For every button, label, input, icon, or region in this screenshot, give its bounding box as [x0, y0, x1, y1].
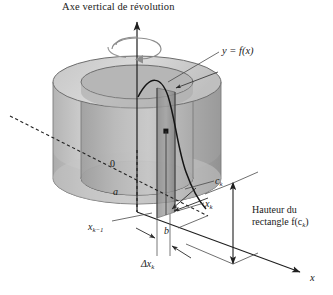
height-caption: Hauteur du rectangle f(ck)	[252, 204, 309, 228]
upper-bound-label: b	[164, 225, 169, 237]
delta-x-subscript: k	[151, 263, 154, 270]
x-left-subscript: k−1	[92, 226, 103, 233]
figure-graphics	[0, 0, 333, 295]
height-caption-line2: rectangle	[252, 216, 289, 227]
delta-x-letter: Δx	[141, 258, 151, 269]
figure-title: Axe vertical de révolution	[62, 1, 175, 13]
x-right-label: xk	[205, 198, 212, 211]
midpoint-label: ck	[215, 175, 222, 188]
x-axis-label: x	[310, 272, 315, 284]
height-caption-line1: Hauteur du	[252, 204, 297, 215]
curve-label: y = f(x)	[222, 45, 254, 57]
origin-label: 0	[110, 158, 115, 170]
height-caption-fn-end: )	[305, 216, 308, 227]
delta-x-label: Δxk	[141, 258, 154, 271]
x-right-subscript: k	[209, 203, 212, 210]
x-left-label: xk−1	[88, 221, 103, 234]
midpoint-subscript: k	[219, 180, 222, 187]
lower-bound-label: a	[113, 186, 118, 198]
shell-method-figure: Axe vertical de révolution y = f(x) 0 a …	[0, 0, 333, 295]
height-caption-fn: f(c	[291, 216, 302, 227]
